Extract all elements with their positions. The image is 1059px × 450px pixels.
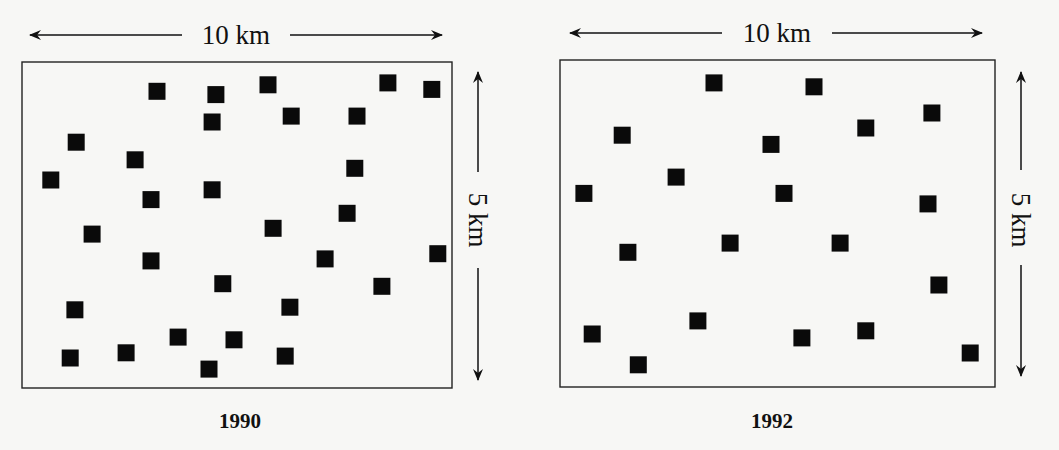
square-marker [920, 195, 937, 212]
square-marker [614, 127, 631, 144]
square-marker [857, 322, 874, 339]
square-marker [832, 235, 849, 252]
square-marker [630, 356, 647, 373]
square-marker [429, 245, 446, 262]
square-marker [226, 331, 243, 348]
markers-1990 [42, 74, 446, 377]
width-label: 10 km [202, 20, 270, 50]
square-marker [62, 350, 79, 367]
square-marker [66, 301, 83, 318]
square-marker [930, 277, 947, 294]
square-marker [423, 81, 440, 98]
square-marker [379, 74, 396, 91]
square-marker [346, 160, 363, 177]
square-marker [962, 345, 979, 362]
square-marker [201, 361, 218, 378]
square-marker [68, 134, 85, 151]
square-marker [143, 191, 160, 208]
square-marker [204, 114, 221, 131]
markers-1992 [575, 74, 978, 373]
square-marker [214, 275, 231, 292]
square-marker [283, 108, 300, 125]
square-marker [143, 252, 160, 269]
square-marker [204, 181, 221, 198]
square-marker [722, 235, 739, 252]
square-marker [170, 329, 187, 346]
square-marker [575, 185, 592, 202]
square-marker [260, 76, 277, 93]
square-marker [584, 326, 601, 343]
square-marker [763, 136, 780, 153]
panel-1992: 10 km 5 km 1992 [560, 18, 1036, 433]
square-marker [207, 86, 224, 103]
square-marker [317, 250, 334, 267]
panel-1990: 10 km 5 km 1990 [22, 20, 493, 433]
square-marker [668, 169, 685, 186]
square-marker [118, 344, 135, 361]
square-marker [265, 220, 282, 237]
height-label: 5 km [463, 193, 493, 248]
square-marker [127, 151, 144, 168]
square-marker [689, 312, 706, 329]
square-marker [806, 78, 823, 95]
year-label: 1990 [219, 409, 261, 433]
square-marker [857, 120, 874, 137]
width-label: 10 km [743, 18, 811, 48]
square-marker [349, 108, 366, 125]
square-marker [277, 348, 294, 365]
square-marker [706, 74, 723, 91]
square-marker [373, 278, 390, 295]
square-marker [149, 83, 166, 100]
square-marker [793, 329, 810, 346]
square-marker [776, 185, 793, 202]
year-label: 1992 [751, 409, 793, 433]
diagram-canvas: 10 km 5 km 1990 10 km 5 km 1992 [0, 0, 1059, 450]
square-marker [42, 172, 59, 189]
square-marker [339, 205, 356, 222]
height-label: 5 km [1006, 193, 1036, 248]
square-marker [84, 226, 101, 243]
square-marker [923, 105, 940, 122]
square-marker [281, 299, 298, 316]
square-marker [619, 244, 636, 261]
